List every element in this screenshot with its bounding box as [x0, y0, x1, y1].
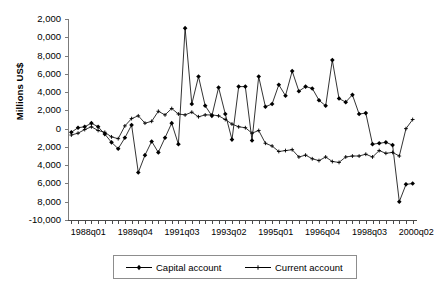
legend-marker-cross-icon	[245, 267, 271, 268]
y-tick-label: 6,000	[0, 69, 61, 79]
x-tick-mark	[326, 221, 327, 224]
series-capital-account	[69, 26, 415, 204]
x-tick-mark	[339, 221, 340, 224]
x-tick-mark	[352, 221, 353, 224]
x-tick-mark	[158, 221, 159, 224]
plot-area	[68, 19, 416, 220]
x-tick-label: 1993q02	[211, 227, 246, 237]
x-tick-mark	[118, 221, 119, 224]
x-tick-mark	[219, 221, 220, 224]
y-tick-label: 4,000	[0, 160, 61, 170]
chart-legend: Capital account Current account	[113, 255, 357, 279]
x-tick-label: 1991q03	[165, 227, 200, 237]
x-tick-label: 1988q01	[71, 227, 106, 237]
y-tick-label: 0,000	[0, 32, 61, 42]
x-tick-mark	[359, 221, 360, 224]
x-tick-mark	[279, 221, 280, 224]
x-tick-label: 1989q04	[118, 227, 153, 237]
x-tick-mark	[125, 221, 126, 224]
x-tick-label: 1996q04	[305, 227, 340, 237]
x-tick-mark	[286, 221, 287, 224]
x-tick-label: 2000q02	[399, 227, 434, 237]
y-tick-label: 2,000	[0, 142, 61, 152]
x-tick-mark	[105, 221, 106, 224]
x-tick-mark	[312, 221, 313, 224]
x-tick-label: 1998q03	[352, 227, 387, 237]
legend-item-current-account: Current account	[245, 260, 343, 275]
legend-label: Current account	[275, 262, 343, 273]
x-tick-mark	[413, 221, 414, 224]
x-tick-mark	[373, 221, 374, 224]
x-tick-mark	[185, 221, 186, 224]
x-tick-mark	[332, 221, 333, 224]
x-tick-mark	[172, 221, 173, 224]
x-tick-mark	[145, 221, 146, 224]
x-tick-mark	[91, 221, 92, 224]
x-tick-mark	[386, 221, 387, 224]
x-tick-mark	[152, 221, 153, 224]
x-tick-mark	[98, 221, 99, 224]
x-tick-mark	[192, 221, 193, 224]
x-tick-mark	[199, 221, 200, 224]
x-tick-mark	[178, 221, 179, 224]
x-tick-mark	[165, 221, 166, 224]
x-tick-mark	[252, 221, 253, 224]
x-tick-mark	[306, 221, 307, 224]
series-canvas	[68, 19, 416, 220]
y-tick-label: 6,000	[0, 178, 61, 188]
x-tick-mark	[319, 221, 320, 224]
x-tick-mark	[205, 221, 206, 224]
y-tick-label: 4,000	[0, 87, 61, 97]
x-tick-mark	[366, 221, 367, 224]
x-tick-mark	[399, 221, 400, 224]
x-tick-mark	[232, 221, 233, 224]
x-axis-line	[68, 220, 417, 221]
x-tick-mark	[85, 221, 86, 224]
series-current-account	[69, 107, 414, 165]
x-tick-mark	[239, 221, 240, 224]
y-tick-label: 8,000	[0, 51, 61, 61]
x-tick-mark	[393, 221, 394, 224]
x-tick-mark	[292, 221, 293, 224]
x-tick-mark	[299, 221, 300, 224]
x-tick-mark	[265, 221, 266, 224]
x-tick-mark	[225, 221, 226, 224]
x-tick-mark	[379, 221, 380, 224]
x-tick-mark	[132, 221, 133, 224]
x-tick-mark	[71, 221, 72, 224]
x-tick-mark	[406, 221, 407, 224]
legend-marker-filled-diamond-icon	[126, 267, 152, 268]
y-tick-label: 2,000	[0, 105, 61, 115]
x-tick-mark	[272, 221, 273, 224]
x-tick-mark	[138, 221, 139, 224]
y-tick-label: 0	[0, 124, 61, 134]
y-tick-label: 2,000	[0, 14, 61, 24]
x-tick-mark	[346, 221, 347, 224]
x-tick-mark	[78, 221, 79, 224]
x-tick-mark	[259, 221, 260, 224]
y-tick-label: 8,000	[0, 197, 61, 207]
legend-item-capital-account: Capital account	[126, 260, 221, 275]
legend-label: Capital account	[156, 262, 221, 273]
x-tick-mark	[212, 221, 213, 224]
x-tick-mark	[112, 221, 113, 224]
x-tick-mark	[245, 221, 246, 224]
x-tick-label: 1995q01	[258, 227, 293, 237]
y-tick-label: -10,000	[0, 215, 61, 225]
